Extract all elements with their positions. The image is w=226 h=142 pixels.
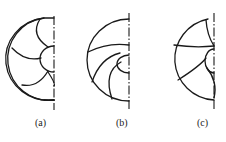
- panel-b-blade-1: [88, 44, 129, 52]
- panel-c-blade-top: [206, 20, 214, 46]
- panel-b-blade-3: [109, 62, 121, 99]
- panel-a-blade-2: [12, 48, 41, 59]
- panel-a-blade-3: [22, 71, 48, 85]
- panel-c-blade-1: [174, 45, 214, 47]
- panel-b-outer-arc: [87, 19, 129, 101]
- panel-c-label: (c): [197, 117, 208, 129]
- panel-a-hub: [40, 46, 54, 72]
- panel-b-blade-2: [92, 53, 120, 82]
- panel-a-blade-4: [48, 72, 54, 86]
- panel-c-hub: [205, 49, 214, 73]
- panel-a-diagram: [6, 16, 55, 110]
- impeller-figure: (a) (b) (c): [0, 0, 226, 142]
- panel-b-label: (b): [116, 117, 128, 129]
- panel-a-blade-1: [36, 19, 48, 47]
- panel-c-diagram: [174, 13, 215, 110]
- panel-c-blade-2: [178, 58, 206, 80]
- panel-a-label: (a): [35, 117, 46, 129]
- panel-b-diagram: [87, 13, 129, 110]
